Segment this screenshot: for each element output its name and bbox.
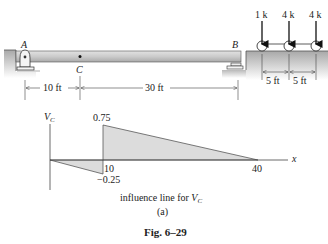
wheel-2 [284,21,294,51]
spacing-label-1: 5 ft [266,75,280,86]
wheel-3 [311,21,321,51]
figure-caption: Fig. 6–29 [144,226,187,238]
label-c: C [76,64,83,75]
beam [16,51,241,62]
roller-support-b [222,63,246,78]
load-label-2: 4 k [282,9,295,20]
point-c-marker [79,55,82,58]
graph-sublabel: (a) [157,206,168,218]
spacing-label-2: 5 ft [293,75,307,86]
negative-region [50,160,103,174]
trough-value-label: −0.25 [97,174,120,185]
dim-ac-label: 10 ft [43,82,62,93]
x-tick-10: 10 [104,163,114,174]
graph-caption: influence line for VC [120,192,202,205]
x-axis-label: x [291,153,297,164]
load-label-1: 1 k [255,9,268,20]
positive-region [103,125,258,160]
y-axis-label: VC [44,111,55,124]
dim-cb-label: 30 ft [145,82,164,93]
wheel-1 [257,21,267,51]
influence-line-diagram: A C B 1 k 4 k 4 k [0,0,328,244]
load-label-3: 4 k [309,9,322,20]
moving-load-train [257,21,321,51]
label-b: B [232,39,238,50]
peak-value-label: 0.75 [93,112,111,123]
x-tick-40: 40 [252,163,262,174]
label-a: A [20,39,28,50]
influence-line-chart [50,124,288,190]
